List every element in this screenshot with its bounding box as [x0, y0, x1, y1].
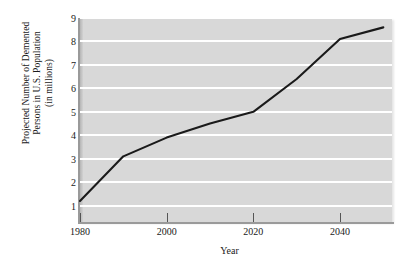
- x-axis-tick-mark: [167, 213, 168, 222]
- gridline: [80, 134, 392, 136]
- y-axis-tick-label: 6: [58, 83, 76, 94]
- x-axis-title: Year: [0, 245, 407, 256]
- y-axis-tick-label: 7: [58, 59, 76, 70]
- gridline: [80, 17, 392, 19]
- gridline: [80, 40, 392, 42]
- x-axis-title-text: Year: [220, 245, 238, 256]
- y-axis-line: [78, 18, 80, 224]
- x-axis-tick-mark: [80, 213, 81, 222]
- plot-area: [80, 18, 392, 222]
- y-axis-tick-label: 4: [58, 130, 76, 141]
- x-axis-tick-mark: [340, 213, 341, 222]
- gridline: [80, 181, 392, 183]
- x-axis-tick-label: 2000: [147, 226, 187, 237]
- chart-figure: Projected Number of Demented Persons in …: [0, 0, 407, 271]
- y-axis-tick-label: 1: [58, 200, 76, 211]
- y-axis-tick-label: 5: [58, 106, 76, 117]
- x-axis-tick-mark: [253, 213, 254, 222]
- y-axis-title: Projected Number of Demented Persons in …: [15, 0, 61, 178]
- y-axis-title-line-1: Projected Number of Demented: [21, 22, 32, 144]
- y-axis-tick-label: 9: [58, 13, 76, 24]
- y-axis-title-line-2: Persons in U.S. Population: [32, 31, 43, 134]
- y-axis-title-line-3: (in millions): [44, 59, 55, 107]
- x-axis-tick-label: 1980: [60, 226, 100, 237]
- gridline: [80, 87, 392, 89]
- y-axis-tick-label: 3: [58, 153, 76, 164]
- gridline: [80, 64, 392, 66]
- y-axis-tick-label: 2: [58, 177, 76, 188]
- x-axis-tick-label: 2020: [233, 226, 273, 237]
- gridline: [80, 158, 392, 160]
- x-axis-line: [80, 222, 394, 224]
- x-axis-tick-label: 2040: [320, 226, 360, 237]
- gridline: [80, 111, 392, 113]
- y-axis-tick-label: 8: [58, 36, 76, 47]
- gridline: [80, 205, 392, 207]
